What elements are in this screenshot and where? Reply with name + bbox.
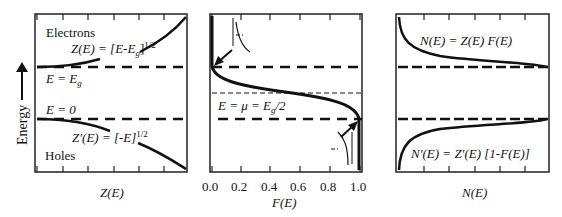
svg-text:0.0: 0.0: [202, 179, 218, 194]
up-arrow-icon: [16, 62, 28, 100]
svg-text:0.6: 0.6: [290, 179, 307, 194]
ze-formula: Z(E) = [E-Eg]1/2: [71, 40, 156, 58]
x-axis-label-ne: N(E): [461, 185, 487, 200]
panel-carrier-density: N(E) = Z(E) F(E) N′(E) = Z′(E) [1-F(E)] …: [396, 14, 549, 200]
x-axis-label-fe: F(E): [271, 195, 297, 210]
x-tick-labels: 0.0 0.2 0.4 0.6 0.8 1.0: [202, 179, 366, 194]
arrow-icon: [341, 121, 358, 137]
ne-formula: N(E) = Z(E) F(E): [419, 33, 512, 48]
zpe-formula: Z′(E) = [-E]1/2: [72, 129, 148, 145]
svg-text:0.8: 0.8: [320, 179, 336, 194]
panel-density-of-states: Electrons Z(E) = [E-Eg]1/2 E = Eg E = 0 …: [35, 14, 187, 200]
npe-formula: N′(E) = Z′(E) [1-F(E)]: [410, 146, 530, 161]
band-diagram: Energy Electrons Z(E) = [E-Eg]1/2 E = Eg…: [0, 0, 562, 217]
svg-text:1.0: 1.0: [350, 179, 366, 194]
y-axis-label: Energy: [15, 105, 30, 145]
e0-label: E = 0: [45, 102, 76, 117]
x-axis-label-ze: Z(E): [100, 185, 124, 200]
arrow-icon: [214, 50, 232, 66]
svg-text:0.4: 0.4: [261, 179, 278, 194]
panel-fermi-function: E = μ = Eg/2 0.0 0.2 0.4 0.6 0.8 1.0 F(E…: [202, 14, 366, 210]
eg-label: E = Eg: [45, 71, 82, 88]
holes-label: Holes: [45, 148, 75, 163]
electrons-label: Electrons: [46, 25, 95, 40]
svg-text:0.2: 0.2: [231, 179, 247, 194]
mu-label: E = μ = Eg/2: [217, 98, 286, 115]
